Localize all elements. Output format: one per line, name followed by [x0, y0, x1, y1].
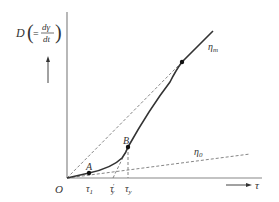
eta-0-dashed-line [67, 154, 250, 178]
eta-m-label: ηm [208, 41, 218, 54]
x-axis-label: τ [255, 179, 260, 191]
point-A-label: A [85, 161, 93, 172]
y-axis-label-eq: = [33, 28, 39, 39]
flow-curve-diagram: D ( = dγ dt ) τ O A B τ1 τ′y τy ηm η0 [0, 0, 279, 202]
eta-0-label: η0 [194, 146, 203, 159]
eta-m-dashed-line [67, 62, 182, 178]
tick-tau-y: τy [125, 183, 133, 196]
y-axis-label-den: dt [43, 34, 51, 44]
y-arrowhead-icon [46, 56, 50, 62]
y-axis-label-paren-close: ) [55, 21, 62, 44]
y-axis-label-main: D [15, 26, 25, 40]
x-arrowhead-icon [246, 183, 252, 187]
tick-tau-1: τ1 [86, 183, 93, 196]
tick-tau-y-prime: τ′y [110, 182, 115, 196]
point-top [180, 60, 184, 64]
y-axis-label-num: dγ [42, 22, 51, 32]
origin-label: O [55, 183, 63, 195]
point-B-label: B [123, 135, 129, 146]
